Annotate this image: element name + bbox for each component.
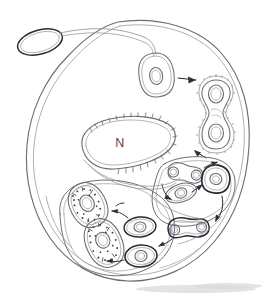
figure-root: N [0, 0, 270, 293]
cell-single-bottom-low [124, 244, 157, 268]
cell-entry [136, 51, 177, 99]
external-oval-body [15, 24, 66, 60]
external-body-stalk [60, 29, 156, 56]
arrow-degrading-link [116, 203, 124, 206]
cell-diagram-svg: N [0, 0, 270, 293]
arrow-right-cluster-down [215, 196, 223, 222]
arrow-entry-to-dividing [178, 77, 196, 84]
cell-pair-bottom [166, 213, 210, 242]
granular-contents [83, 220, 123, 266]
arrow-single-to-degrading-upper [111, 209, 128, 218]
cell-pair-mid [167, 162, 203, 184]
arrow-pair-to-single-bottom [158, 239, 172, 247]
host-cell-outline [26, 20, 249, 281]
nucleus-label: N [115, 136, 124, 150]
vacuole-stipple-dots [196, 74, 235, 154]
paper-smudge [136, 283, 262, 293]
cell-dividing-top [196, 74, 235, 154]
cell-single-bottom-mid [123, 215, 157, 238]
